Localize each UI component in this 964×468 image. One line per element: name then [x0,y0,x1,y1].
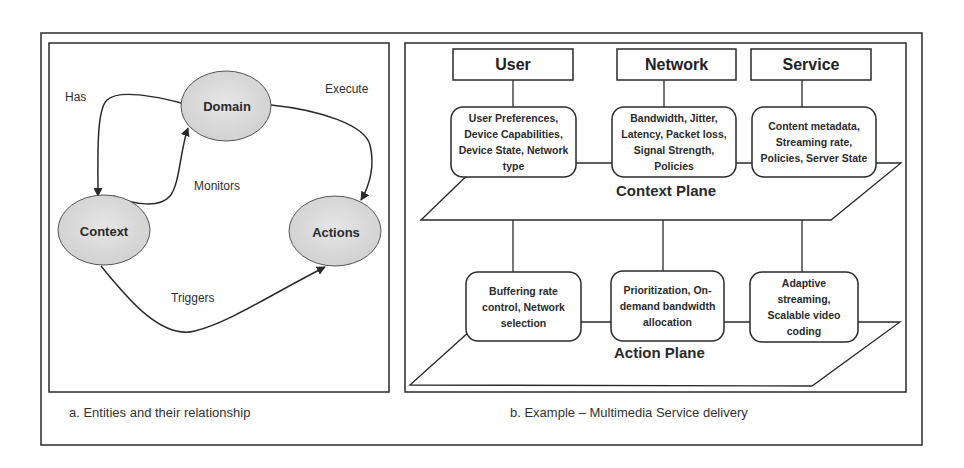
node-label-context: Context [80,224,128,239]
ctx-user-line: type [459,158,569,174]
ctx-network-line: Bandwidth, Jitter, [621,110,726,126]
ctx-network-line: Policies [621,158,726,174]
act-service-line: Adaptive [768,275,841,291]
edge-monitors [113,128,188,204]
act-user-line: Buffering rate [482,283,565,299]
act-network-line: demand bandwidth [620,298,716,314]
ctx-user-text: User Preferences, Device Capabilities, D… [451,107,576,177]
ctx-network-text: Bandwidth, Jitter, Latency, Packet loss,… [612,107,736,177]
edge-has [98,94,181,196]
act-service-line: coding [768,323,841,339]
edge-label-has: Has [65,90,86,104]
act-user-text: Buffering rate control, Network selectio… [466,272,581,341]
edge-label-execute: Execute [325,82,368,96]
edge-label-monitors: Monitors [194,179,240,193]
act-user-line: selection [482,315,565,331]
ctx-service-text: Content metadata, Streaming rate, Polici… [752,107,876,177]
act-user-line: control, Network [482,299,565,315]
edge-execute [271,105,372,200]
act-service-text: Adaptive streaming, Scalable video codin… [750,272,858,342]
node-label-domain: Domain [203,99,251,114]
act-service-line: Scalable video [768,307,841,323]
action-plane-label: Action Plane [614,344,705,361]
act-network-line: allocation [620,314,716,330]
context-plane-label: Context Plane [616,182,716,199]
header-network: Network [617,49,736,80]
header-service: Service [751,49,871,80]
ctx-service-line: Streaming rate, [761,134,868,150]
ctx-network-line: Latency, Packet loss, [621,126,726,142]
act-network-line: Prioritization, On- [620,282,716,298]
caption-b: b. Example – Multimedia Service delivery [510,405,748,420]
act-network-text: Prioritization, On- demand bandwidth all… [611,271,724,341]
ctx-service-line: Content metadata, [761,118,868,134]
caption-a: a. Entities and their relationship [69,405,250,420]
act-service-line: streaming, [768,291,841,307]
ctx-user-line: User Preferences, [459,110,569,126]
header-user: User [453,49,573,80]
ctx-service-line: Policies, Server State [761,150,868,166]
node-label-actions: Actions [312,225,360,240]
edge-label-triggers: Triggers [171,291,215,305]
ctx-user-line: Device Capabilities, [459,126,569,142]
ctx-network-line: Signal Strength, [621,142,726,158]
ctx-user-line: Device State, Network [459,142,569,158]
